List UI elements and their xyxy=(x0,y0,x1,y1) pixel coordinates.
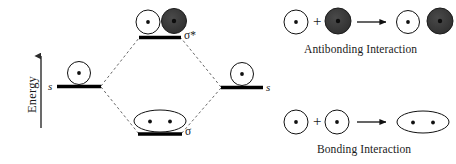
orbital-center-dot xyxy=(77,71,81,75)
plus-sign-antibonding: + xyxy=(313,14,321,29)
orbital-center-dot xyxy=(406,20,410,24)
level-label-left-atomic: s xyxy=(48,81,52,92)
caption-bonding: Bonding Interaction xyxy=(317,144,411,156)
orbital-center-dot xyxy=(148,120,152,124)
correlation-left-to-bonding xyxy=(101,87,139,134)
orbital-center-dot xyxy=(335,120,339,124)
energy-axis-label: Energy xyxy=(26,76,39,113)
diagram-canvas xyxy=(0,0,456,164)
merged-ellipse xyxy=(397,111,449,133)
level-label-right-atomic: s xyxy=(266,82,270,93)
plus-sign-bonding: + xyxy=(313,114,321,129)
merged-ellipse xyxy=(134,110,186,132)
orbital-center-dot xyxy=(172,19,176,23)
orbital-center-dot xyxy=(294,120,298,124)
orbital-center-dot xyxy=(168,120,172,124)
orbital-center-dot xyxy=(411,121,415,125)
caption-antibonding: Antibonding Interaction xyxy=(304,44,417,56)
bonding-interaction-row xyxy=(284,110,449,134)
orbital-left-atomic xyxy=(68,62,91,85)
orbital-center-dot xyxy=(431,121,435,125)
orbital-center-dot xyxy=(438,19,442,23)
orbital-right-atomic xyxy=(231,63,254,86)
orbital-bonding xyxy=(134,110,186,132)
orbital-center-dot xyxy=(240,72,244,76)
antibonding-interaction-row xyxy=(284,8,453,34)
orbital-center-dot xyxy=(146,20,150,24)
correlation-right-to-antibonding xyxy=(181,38,221,87)
mo-interaction-figure: Energy s s σ* σ + + Antibonding Interact… xyxy=(0,0,456,164)
orbital-antibonding xyxy=(136,9,187,35)
level-label-antibonding: σ* xyxy=(184,30,196,42)
orbital-center-dot xyxy=(294,20,298,24)
level-label-bonding: σ xyxy=(185,126,191,138)
correlation-left-to-antibonding xyxy=(101,38,139,86)
orbital-center-dot xyxy=(336,19,340,23)
